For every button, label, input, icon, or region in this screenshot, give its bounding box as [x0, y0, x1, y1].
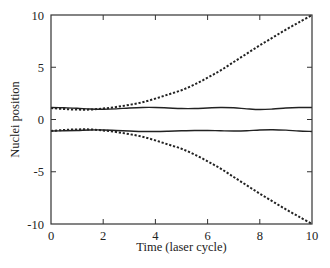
- series-line-dashed-2: [51, 15, 312, 110]
- x-tick-label: 2: [100, 229, 106, 243]
- series-line-solid-1: [51, 130, 312, 132]
- y-tick-label: 5: [38, 61, 44, 75]
- x-tick-label: 8: [257, 229, 263, 243]
- y-axis-label: Nuclei position: [8, 80, 22, 157]
- series-line-dashed-3: [51, 129, 312, 224]
- y-tick-label: -5: [34, 165, 44, 179]
- ticks-layer: 0246810-10-50510: [27, 9, 318, 244]
- x-axis-label: Time (laser cycle): [136, 240, 226, 254]
- series-line-solid-0: [51, 107, 312, 109]
- y-tick-label: 0: [38, 113, 44, 127]
- y-tick-label: 10: [32, 9, 45, 23]
- y-tick-label: -10: [27, 218, 44, 232]
- series-layer: [51, 15, 312, 224]
- x-tick-label: 10: [306, 229, 319, 243]
- plot-frame: [51, 15, 312, 224]
- x-tick-label: 0: [48, 229, 54, 243]
- line-chart: 0246810-10-50510 Time (laser cycle) Nucl…: [0, 0, 330, 268]
